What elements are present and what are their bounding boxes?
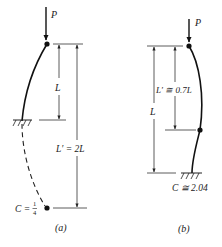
- fixed-support-b: [181, 173, 202, 179]
- dim-label-l-b: L: [149, 106, 156, 117]
- column-b: [189, 46, 202, 173]
- column-buckling-diagram: P L L′ = 2L C = 1 4: [0, 0, 222, 247]
- column-a: [22, 44, 47, 121]
- bottom-dot-a: [44, 205, 49, 210]
- top-pin-dot-a: [44, 41, 49, 46]
- coeff-denominator-a: 4: [33, 209, 37, 216]
- load-label-b: P: [194, 17, 201, 28]
- coeff-prefix-a: C =: [15, 204, 33, 214]
- dim-label-l-a: L: [54, 82, 61, 93]
- dim-label-lprime-b: L′ ≅ 0.7L: [155, 85, 192, 95]
- coefficient-label-b: C ≅ 2.04: [172, 183, 208, 193]
- diagram-b: P L′ ≅ 0.7L L C ≅ 2.04 (b): [147, 17, 208, 235]
- caption-a: (a): [55, 222, 67, 234]
- equivalent-column-extension-a: [22, 124, 45, 206]
- top-pin-dot-b: [186, 43, 191, 48]
- diagram-a: P L L′ = 2L C = 1 4: [13, 7, 87, 234]
- dim-label-lprime-a: L′ = 2L: [55, 144, 85, 154]
- inflection-dot-b: [197, 127, 202, 132]
- coeff-numerator-a: 1: [33, 200, 36, 207]
- coefficient-label-a: C = 1 4: [15, 200, 37, 216]
- caption-b: (b): [178, 223, 190, 235]
- load-label-a: P: [50, 9, 57, 20]
